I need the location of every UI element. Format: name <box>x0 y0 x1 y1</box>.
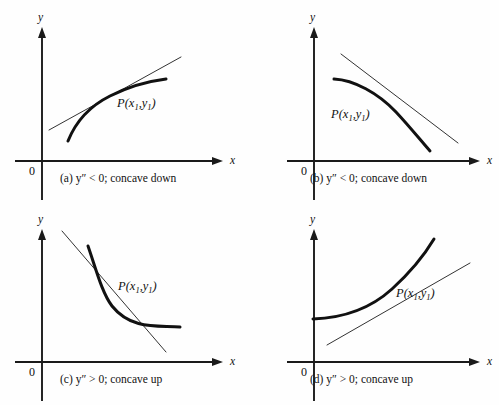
y-axis-label: y <box>310 214 315 226</box>
y-axis-arrowhead <box>310 27 318 38</box>
origin-label: 0 <box>29 366 35 378</box>
y-axis-arrowhead <box>38 229 46 240</box>
panel-caption: (c) y″ > 0; concave up <box>60 373 162 385</box>
tangent-line <box>327 263 470 345</box>
x-axis-arrowhead <box>212 157 223 165</box>
y-axis-label: y <box>310 12 315 24</box>
y-axis-label: y <box>38 214 43 226</box>
tangent-line <box>341 54 458 143</box>
point-label-p: P(x1,y1) <box>331 108 370 121</box>
panel-b: y x 0 P(x1,y1) (b) y″ < 0; concave down <box>250 0 499 202</box>
x-axis-arrowhead <box>212 358 223 366</box>
panel-d: y x 0 P(x1,y1) (d) y″ > 0; concave up <box>250 201 499 403</box>
panel-a: y x 0 P(x1,y1) (a) y″ < 0; concave down <box>0 0 249 202</box>
panel-caption: (a) y″ < 0; concave down <box>60 172 176 184</box>
x-axis-label: x <box>487 356 492 368</box>
y-axis-arrowhead <box>310 229 318 240</box>
x-axis-arrowhead <box>469 358 480 366</box>
panel-c: y x 0 P(x1,y1) (c) y″ > 0; concave up <box>0 201 249 403</box>
x-axis-label: x <box>230 356 235 368</box>
y-axis-arrowhead <box>38 27 46 38</box>
y-axis-label: y <box>38 12 43 24</box>
origin-label: 0 <box>29 165 35 177</box>
concavity-figure: y x 0 P(x1,y1) (a) y″ < 0; concave down … <box>0 0 499 405</box>
origin-label: 0 <box>301 366 307 378</box>
point-label-p: P(x1,y1) <box>117 97 156 110</box>
x-axis-arrowhead <box>469 157 480 165</box>
point-label-p: P(x1,y1) <box>396 287 435 300</box>
x-axis-label: x <box>230 155 235 167</box>
function-curve <box>313 239 434 319</box>
point-label-p: P(x1,y1) <box>118 280 157 293</box>
panel-caption: (b) y″ < 0; concave down <box>310 172 427 184</box>
x-axis-label: x <box>487 155 492 167</box>
origin-label: 0 <box>301 165 307 177</box>
panel-caption: (d) y″ > 0; concave up <box>310 373 413 385</box>
